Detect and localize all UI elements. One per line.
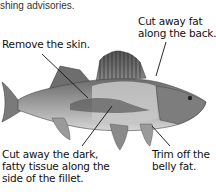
label-cut-fat-back: Cut away fat along the back.	[138, 15, 216, 39]
label-trim-belly-fat: Trim off the belly fat.	[152, 148, 216, 172]
dorsal-fin	[96, 51, 146, 82]
callout-line-belly	[152, 126, 170, 146]
callout-line-back	[156, 42, 166, 76]
label-cut-dark-tissue: Cut away the dark, fatty tissue along th…	[2, 148, 122, 184]
label-remove-skin: Remove the skin.	[2, 38, 102, 50]
